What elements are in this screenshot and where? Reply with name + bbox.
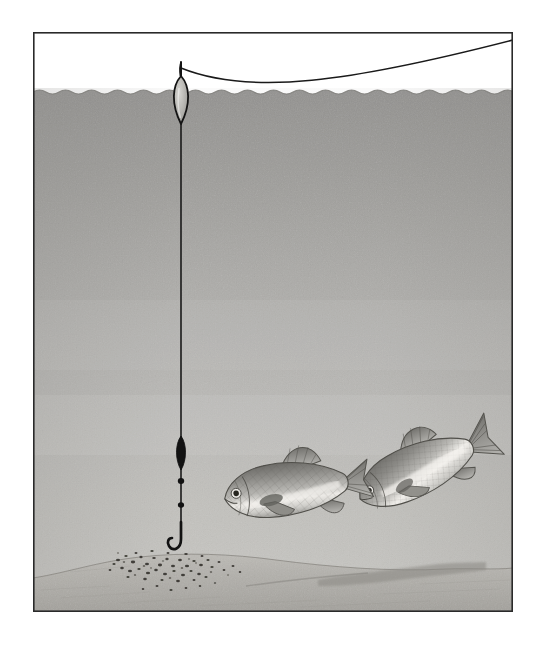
water-body xyxy=(33,88,514,612)
air-above-water xyxy=(33,32,513,94)
dropper-shot-2 xyxy=(178,502,184,508)
fishing-scene-svg: Pole fishing rig with float above ground… xyxy=(0,0,548,656)
illustration-scene: Pole fishing rig with float above ground… xyxy=(0,0,548,656)
framed-illustration xyxy=(33,32,514,612)
dropper-shot-1 xyxy=(178,478,184,484)
water-haze-band xyxy=(33,300,513,370)
